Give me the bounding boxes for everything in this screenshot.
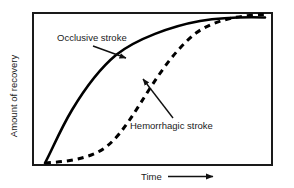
chart-figure: Amount of recovery Occlusive stroke Hemo… [0, 0, 294, 188]
y-axis-label: Amount of recovery [8, 55, 19, 138]
annotation-label-hemorrhagic-stroke: Hemorrhagic stroke [130, 120, 213, 131]
annotation-label-occlusive-stroke: Occlusive stroke [57, 32, 127, 43]
recovery-curves-chart: Amount of recovery Occlusive stroke Hemo… [0, 0, 294, 188]
x-axis-label: Time [141, 171, 162, 182]
